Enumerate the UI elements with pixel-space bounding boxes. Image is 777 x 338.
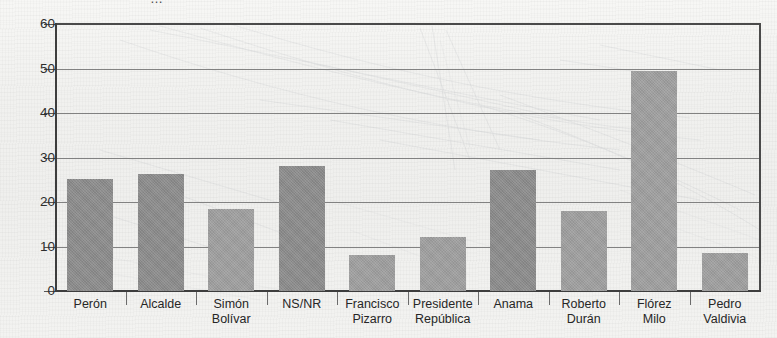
bar-fill [349,255,395,291]
x-axis-label-3: NS/NR [267,292,338,312]
x-axis-tick-separator [337,292,338,305]
x-axis-label-line: Francisco [337,297,408,312]
bar-fill [631,71,677,291]
bar-fill [138,174,184,291]
x-axis-label-line: Bolívar [196,312,267,327]
bar-per-n [67,179,113,291]
x-axis-label-line: República [408,312,479,327]
x-axis-label-line: NS/NR [267,297,338,312]
bar-fill [561,211,607,291]
x-axis-label-2: SimónBolívar [196,292,267,326]
x-axis-label-line: Flórez [619,297,690,312]
bar-fl-rez-milo [631,71,677,291]
x-axis-label-line: Pedro [690,297,761,312]
x-axis-label-line: Anama [478,297,549,312]
bar-ns-nr [279,166,325,291]
x-axis-label-line: Simón [196,297,267,312]
bar-fill [420,237,466,291]
x-axis-label-7: RobertoDurán [549,292,620,326]
bar-fill [490,170,536,291]
x-axis-tick-separator [196,292,197,305]
x-axis-label-6: Anama [478,292,549,312]
page-title: … [150,0,163,6]
x-axis-label-line: Presidente [408,297,479,312]
y-tick-label-30: 30 [17,151,55,165]
y-tick-label-60: 60 [17,17,55,31]
x-axis-tick-separator [690,292,691,305]
x-axis-label-line: Valdivia [690,312,761,327]
x-axis-tick-separator [549,292,550,305]
x-axis-label-4: FranciscoPizarro [337,292,408,326]
x-axis-label-5: PresidenteRepública [408,292,479,326]
x-axis-label-line: Durán [549,312,620,327]
bar-francisco-pizarro [349,255,395,291]
x-axis-category-labels: PerónAlcaldeSimónBolívarNS/NRFranciscoPi… [55,292,761,338]
bars-layer [55,24,760,291]
bar-fill [67,179,113,291]
x-axis-tick-separator [267,292,268,305]
y-tick-label-0: 0 [17,284,55,298]
x-axis-label-8: FlórezMilo [619,292,690,326]
bar-sim-n-bol-var [208,209,254,291]
x-axis-label-line: Roberto [549,297,620,312]
y-tick-label-40: 40 [17,106,55,120]
y-tick-label-50: 50 [17,62,55,76]
x-axis-label-line: Pizarro [337,312,408,327]
x-axis-label-line: Milo [619,312,690,327]
x-axis-tick-separator [619,292,620,305]
y-tick-label-20: 20 [17,195,55,209]
x-axis-label-0: Perón [55,292,126,312]
x-axis-label-line: Alcalde [126,297,197,312]
x-axis-tick-separator [126,292,127,305]
x-axis-tick-separator [408,292,409,305]
bar-alcalde [138,174,184,291]
bar-pedro-valdivia [702,253,748,291]
bar-fill [208,209,254,291]
x-axis-tick-separator [478,292,479,305]
cropped-title-sliver: … [0,0,777,9]
bar-fill [279,166,325,291]
x-axis-label-line: Perón [55,297,126,312]
y-tick-label-10: 10 [17,240,55,254]
chart-figure: … 0 10 20 30 40 50 60 [0,0,777,338]
x-axis-label-1: Alcalde [126,292,197,312]
x-axis-label-9: PedroValdivia [690,292,761,326]
bar-presidente-rep-blica [420,237,466,291]
bar-roberto-dur-n [561,211,607,291]
bar-fill [702,253,748,291]
bar-anama [490,170,536,291]
